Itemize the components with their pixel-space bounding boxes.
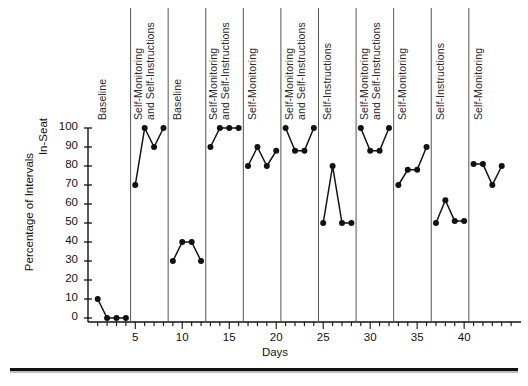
phase-series [170, 239, 204, 264]
data-point [226, 125, 232, 131]
data-point [480, 161, 486, 167]
data-point [358, 125, 364, 131]
phase-series [132, 125, 166, 188]
data-point [283, 125, 289, 131]
data-point [264, 163, 270, 169]
data-point [132, 182, 138, 188]
data-point [236, 125, 242, 131]
data-line [248, 147, 276, 166]
data-point [179, 239, 185, 245]
data-point [395, 182, 401, 188]
data-point [142, 125, 148, 131]
data-point [95, 296, 101, 302]
figure-container: Percentage of Intervals In-Seat Days 010… [0, 0, 528, 386]
data-point [339, 220, 345, 226]
data-point [424, 144, 430, 150]
data-point [452, 218, 458, 224]
data-point [123, 315, 129, 321]
data-line [173, 242, 201, 261]
data-line [323, 166, 351, 223]
data-point [189, 239, 195, 245]
data-point [301, 148, 307, 154]
phase-series [245, 144, 279, 169]
phase-series [358, 125, 392, 154]
data-line [98, 299, 126, 318]
data-line [398, 147, 426, 185]
data-point [471, 161, 477, 167]
data-point [198, 258, 204, 264]
data-line [436, 200, 464, 223]
data-point [330, 163, 336, 169]
data-point [461, 218, 467, 224]
data-line [474, 164, 502, 185]
phase-series [95, 296, 129, 321]
phase-series [395, 144, 429, 188]
footer-rule-shadow [10, 371, 518, 373]
data-point [217, 125, 223, 131]
data-point [367, 148, 373, 154]
data-point [292, 148, 298, 154]
phase-series [320, 163, 354, 226]
data-point [207, 144, 213, 150]
data-point [433, 220, 439, 226]
data-point [151, 144, 157, 150]
data-point [499, 163, 505, 169]
phase-series [471, 161, 505, 188]
data-point [254, 144, 260, 150]
data-point [405, 167, 411, 173]
data-line [286, 128, 314, 151]
phase-series [433, 197, 467, 226]
plot-area [0, 0, 528, 386]
data-point [245, 163, 251, 169]
data-point [414, 167, 420, 173]
data-line [210, 128, 238, 147]
phase-series [283, 125, 317, 154]
data-point [489, 182, 495, 188]
data-point [320, 220, 326, 226]
data-point [104, 315, 110, 321]
data-point [170, 258, 176, 264]
data-point [377, 148, 383, 154]
data-point [442, 197, 448, 203]
data-line [361, 128, 389, 151]
phase-series [207, 125, 241, 150]
data-point [113, 315, 119, 321]
data-point [386, 125, 392, 131]
data-point [160, 125, 166, 131]
data-point [273, 148, 279, 154]
data-line [135, 128, 163, 185]
data-point [348, 220, 354, 226]
data-point [311, 125, 317, 131]
